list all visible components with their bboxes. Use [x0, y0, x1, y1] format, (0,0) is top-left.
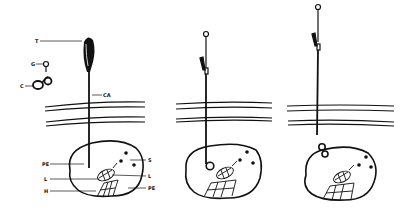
tissue-layers-3	[287, 105, 394, 126]
hatched-grid-3	[323, 183, 354, 200]
panel-2	[176, 32, 272, 199]
lesion-2	[215, 161, 237, 181]
lesion-3	[332, 165, 354, 185]
lesion-1	[96, 163, 117, 183]
guide-ring-icon-2	[204, 32, 209, 37]
label-CA: CA	[103, 92, 111, 98]
panel-3	[287, 5, 394, 201]
label-PE-right: PE	[148, 185, 156, 191]
hatched-grid-2	[204, 180, 236, 197]
tissue-layers-2	[176, 102, 272, 122]
label-G: G	[31, 61, 35, 67]
coil-icon	[33, 77, 52, 89]
label-L-right: L	[148, 173, 152, 179]
label-T: T	[35, 38, 39, 44]
label-PE-left: PE	[42, 161, 50, 167]
coil-tip-icon	[206, 162, 214, 170]
label-L-left: L	[44, 176, 48, 182]
guide-ring-icon	[44, 62, 49, 67]
cannula-shaft-3	[317, 50, 318, 135]
hatched-grid-1	[97, 180, 118, 197]
panel-1	[25, 37, 146, 197]
label-S: S	[148, 157, 152, 163]
label-H: H	[44, 188, 48, 194]
instrument-handle-icon	[83, 37, 94, 72]
coil-detached-icon	[319, 144, 328, 157]
diagram-canvas: T G C CA PE S L L H PE	[0, 0, 410, 212]
label-C: C	[20, 83, 24, 89]
guide-ring-icon-3	[316, 5, 321, 10]
tissue-layers-1	[45, 102, 145, 126]
